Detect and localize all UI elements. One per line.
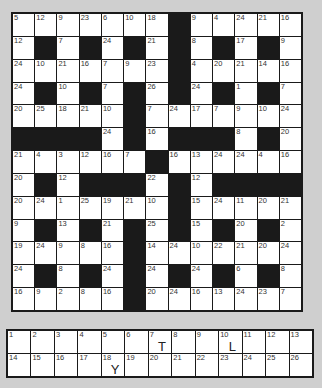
grid-cell[interactable]: 21: [57, 60, 78, 82]
grid-cell[interactable]: 13: [191, 151, 212, 173]
grid-cell[interactable]: 8: [280, 265, 301, 287]
grid-cell[interactable]: 1: [57, 197, 78, 219]
grid-cell[interactable]: 23: [146, 60, 167, 82]
grid-cell[interactable]: 24: [102, 128, 123, 150]
grid-cell[interactable]: 9: [13, 220, 34, 242]
key-cell[interactable]: 24: [243, 354, 265, 376]
grid-cell[interactable]: 24: [191, 265, 212, 287]
key-cell[interactable]: 2: [31, 331, 53, 353]
grid-cell[interactable]: 20: [235, 220, 256, 242]
grid-cell[interactable]: 7: [213, 105, 234, 127]
grid-cell[interactable]: 20: [280, 128, 301, 150]
key-cell[interactable]: 7T: [149, 331, 171, 353]
grid-cell[interactable]: 21: [258, 14, 279, 36]
grid-cell[interactable]: 22: [213, 242, 234, 264]
grid-cell[interactable]: 8: [80, 288, 101, 310]
key-cell[interactable]: 21: [172, 354, 194, 376]
key-cell[interactable]: 23: [219, 354, 241, 376]
grid-cell[interactable]: 18: [57, 105, 78, 127]
key-cell[interactable]: 15: [31, 354, 53, 376]
grid-cell[interactable]: 14: [258, 60, 279, 82]
grid-cell[interactable]: 13: [57, 220, 78, 242]
key-cell[interactable]: 4: [78, 331, 100, 353]
grid-cell[interactable]: 4: [35, 151, 56, 173]
grid-cell[interactable]: 11: [235, 197, 256, 219]
grid-cell[interactable]: 10: [146, 197, 167, 219]
grid-cell[interactable]: 20: [13, 105, 34, 127]
grid-cell[interactable]: 7: [280, 288, 301, 310]
grid-cell[interactable]: 3: [57, 151, 78, 173]
grid-cell[interactable]: 21: [13, 151, 34, 173]
grid-cell[interactable]: 16: [102, 151, 123, 173]
grid-cell[interactable]: 9: [35, 288, 56, 310]
grid-cell[interactable]: 4: [213, 14, 234, 36]
key-cell[interactable]: 12: [266, 331, 288, 353]
grid-cell[interactable]: 7: [146, 105, 167, 127]
grid-cell[interactable]: 20: [258, 242, 279, 264]
grid-cell[interactable]: 12: [57, 174, 78, 196]
grid-cell[interactable]: 9: [235, 105, 256, 127]
grid-cell[interactable]: 21: [235, 242, 256, 264]
grid-cell[interactable]: 12: [80, 151, 101, 173]
grid-cell[interactable]: 10: [57, 83, 78, 105]
grid-cell[interactable]: 16: [280, 60, 301, 82]
key-cell[interactable]: 14: [8, 354, 30, 376]
grid-cell[interactable]: 10: [258, 105, 279, 127]
key-cell[interactable]: 16: [55, 354, 77, 376]
grid-cell[interactable]: 16: [169, 151, 190, 173]
grid-cell[interactable]: 23: [80, 14, 101, 36]
grid-cell[interactable]: 24: [280, 242, 301, 264]
key-cell[interactable]: 22: [196, 354, 218, 376]
grid-cell[interactable]: 24: [280, 105, 301, 127]
grid-cell[interactable]: 23: [258, 288, 279, 310]
grid-cell[interactable]: 6: [235, 265, 256, 287]
grid-cell[interactable]: 20: [146, 288, 167, 310]
grid-cell[interactable]: 4: [258, 151, 279, 173]
grid-cell[interactable]: 21: [280, 197, 301, 219]
grid-cell[interactable]: 9: [280, 37, 301, 59]
grid-cell[interactable]: 8: [235, 128, 256, 150]
grid-cell[interactable]: 16: [13, 288, 34, 310]
grid-cell[interactable]: 15: [191, 220, 212, 242]
grid-cell[interactable]: 24: [169, 105, 190, 127]
grid-cell[interactable]: 12: [191, 174, 212, 196]
grid-cell[interactable]: 5: [13, 14, 34, 36]
grid-cell[interactable]: 24: [13, 265, 34, 287]
grid-cell[interactable]: 26: [146, 83, 167, 105]
key-cell[interactable]: 11: [243, 331, 265, 353]
grid-cell[interactable]: 19: [102, 197, 123, 219]
key-cell[interactable]: 20: [149, 354, 171, 376]
key-cell[interactable]: 26: [290, 354, 312, 376]
grid-cell[interactable]: 16: [146, 128, 167, 150]
grid-cell[interactable]: 25: [35, 105, 56, 127]
grid-cell[interactable]: 7: [57, 37, 78, 59]
grid-cell[interactable]: 2: [280, 220, 301, 242]
grid-cell[interactable]: 16: [102, 288, 123, 310]
grid-cell[interactable]: 8: [191, 37, 212, 59]
grid-cell[interactable]: 16: [280, 151, 301, 173]
grid-cell[interactable]: 20: [13, 174, 34, 196]
key-cell[interactable]: 18Y: [102, 354, 124, 376]
grid-cell[interactable]: 21: [80, 105, 101, 127]
grid-cell[interactable]: 15: [191, 197, 212, 219]
grid-cell[interactable]: 12: [13, 37, 34, 59]
grid-cell[interactable]: 13: [213, 288, 234, 310]
grid-cell[interactable]: 2: [57, 288, 78, 310]
grid-cell[interactable]: 4: [191, 60, 212, 82]
grid-cell[interactable]: 9: [124, 60, 145, 82]
grid-cell[interactable]: 10: [124, 14, 145, 36]
key-cell[interactable]: 10L: [219, 331, 241, 353]
grid-cell[interactable]: 25: [80, 197, 101, 219]
grid-cell[interactable]: 17: [191, 105, 212, 127]
grid-cell[interactable]: 21: [146, 37, 167, 59]
grid-cell[interactable]: 16: [280, 14, 301, 36]
grid-cell[interactable]: 21: [124, 197, 145, 219]
grid-cell[interactable]: 20: [213, 60, 234, 82]
grid-cell[interactable]: 24: [35, 242, 56, 264]
grid-cell[interactable]: 24: [213, 151, 234, 173]
grid-cell[interactable]: 24: [146, 265, 167, 287]
grid-cell[interactable]: 20: [258, 197, 279, 219]
key-cell[interactable]: 17: [78, 354, 100, 376]
grid-cell[interactable]: 24: [235, 14, 256, 36]
grid-cell[interactable]: 24: [13, 83, 34, 105]
